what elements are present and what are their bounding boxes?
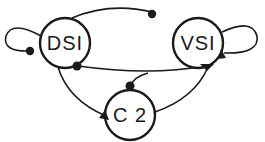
- inhibitory-dot-icon: [148, 10, 156, 18]
- inhibitory-dot-icon: [73, 62, 82, 71]
- inhibitory-dot-icon: [126, 82, 135, 91]
- node-c2: C 2: [105, 90, 155, 140]
- node-c2-label: C 2: [113, 104, 147, 126]
- edge-dsi-to-c2: [58, 67, 106, 116]
- edge-vsi-to-dsi-middle: [78, 66, 205, 71]
- node-vsi-label: VSI: [180, 32, 215, 54]
- edge-vsi-self-loop: [222, 26, 257, 53]
- edge-c2-to-vsi: [155, 67, 208, 112]
- inhibitory-dot-icon: [26, 47, 34, 55]
- edge-dsi-to-vsi-top: [72, 8, 152, 18]
- node-vsi: VSI: [173, 18, 223, 68]
- network-diagram: DSI VSI C 2: [0, 0, 265, 142]
- node-dsi-label: DSI: [47, 32, 83, 54]
- node-dsi: DSI: [40, 18, 90, 68]
- edge-dsi-self-loop: [6, 28, 42, 51]
